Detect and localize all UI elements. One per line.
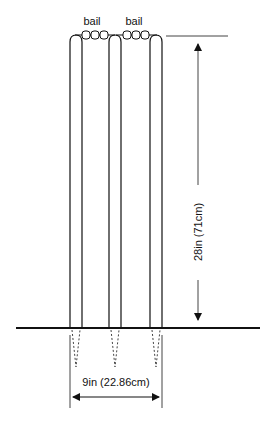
width-label: 9in (22.86cm) (82, 376, 149, 388)
bail-label-right: bail (125, 15, 142, 27)
stump-middle (109, 35, 121, 328)
stump-left (70, 35, 82, 328)
bail-label-left: bail (83, 15, 100, 27)
height-label: 28in (71cm) (192, 203, 204, 261)
stump-right (150, 35, 162, 328)
wicket-diagram: bail bail 28in (71cm) 9in (22.86cm) (0, 0, 274, 430)
buried-stumps (72, 330, 160, 367)
